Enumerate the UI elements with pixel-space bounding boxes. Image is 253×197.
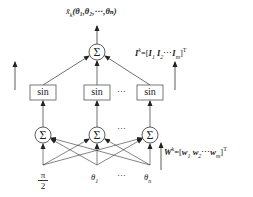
input-theta-n: θn (144, 172, 151, 184)
sum-symbol-3: Σ (142, 127, 158, 143)
weights-out-label: Ik=[I1 I2⋯Im]T (135, 47, 187, 60)
sum-ellipsis: ⋯ (117, 124, 127, 134)
output-label: x̄k(θ₁,θ₂,⋯,θₙ) (66, 6, 117, 18)
network-diagram (0, 0, 253, 197)
sum-symbol-1: Σ (35, 127, 51, 143)
edge-sin1-out (43, 56, 89, 85)
sin-label-2: sin (84, 86, 110, 97)
input-ellipsis: ⋯ (117, 171, 127, 181)
output-sum-symbol: Σ (89, 44, 105, 60)
edge-sin3-out (105, 56, 150, 85)
input-pi-half: π 2 (37, 170, 49, 191)
sin-ellipsis: ⋯ (117, 87, 127, 97)
sin-label-3: sin (137, 86, 163, 97)
sin-label-1: sin (30, 86, 56, 97)
sum-symbol-2: Σ (89, 127, 105, 143)
weights-in-label: Wk=[w1 w2⋯wm]T (164, 146, 227, 159)
input-theta-1: θ1 (91, 172, 98, 184)
